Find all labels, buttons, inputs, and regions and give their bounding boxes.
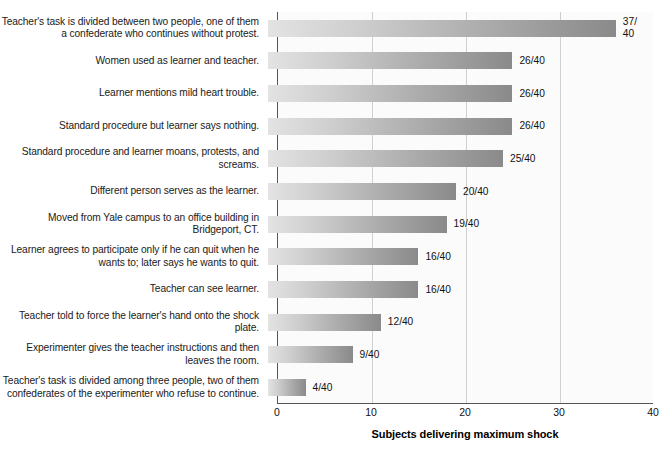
category-label: Standard procedure but learner says noth…: [0, 120, 268, 133]
bar-value-label: 4/40: [313, 382, 333, 394]
bar-value-label: 25/40: [510, 153, 536, 165]
chart-row: Teacher's task is divided among three pe…: [0, 371, 670, 404]
category-label: Different person serves as the learner.: [0, 185, 268, 198]
bar: [268, 85, 512, 102]
category-label: Learner mentions mild heart trouble.: [0, 87, 268, 100]
bar-zone: 19/40: [268, 208, 670, 241]
bar-zone: 26/40: [268, 77, 670, 110]
bar: [268, 52, 512, 69]
bar-zone: 4/40: [268, 371, 670, 404]
bar-value-label: 16/40: [425, 251, 451, 263]
bar-zone: 25/40: [268, 143, 670, 176]
chart-row: Different person serves as the learner.2…: [0, 175, 670, 208]
bar: [268, 281, 418, 298]
bar: [268, 346, 353, 363]
bar-zone: 26/40: [268, 110, 670, 143]
bar-value-label: 12/40: [388, 316, 414, 328]
x-tick-10: 10: [365, 406, 377, 418]
category-label: Learner agrees to participate only if he…: [0, 244, 268, 269]
bar-zone: 26/40: [268, 45, 670, 78]
bar-zone: 9/40: [268, 339, 670, 372]
chart-row: Teacher's task is divided between two pe…: [0, 12, 670, 45]
bar: [268, 248, 418, 265]
category-label: Standard procedure and learner moans, pr…: [0, 146, 268, 171]
bar-zone: 16/40: [268, 273, 670, 306]
bar-value-label: 9/40: [360, 349, 380, 361]
bar: [268, 216, 447, 233]
chart-row: Learner mentions mild heart trouble.26/4…: [0, 77, 670, 110]
bar-value-label: 20/40: [463, 186, 489, 198]
bar: [268, 379, 306, 396]
category-label: Teacher's task is divided between two pe…: [0, 16, 268, 41]
bar-value-label: 19/40: [454, 218, 480, 230]
category-label: Experimenter gives the teacher instructi…: [0, 342, 268, 367]
x-axis-title: Subjects delivering maximum shock: [277, 428, 653, 440]
category-label: Teacher told to force the learner's hand…: [0, 310, 268, 335]
category-label: Women used as learner and teacher.: [0, 55, 268, 68]
bar-value-label: 16/40: [425, 284, 451, 296]
chart-row: Moved from Yale campus to an office buil…: [0, 208, 670, 241]
bar-value-label: 26/40: [519, 55, 545, 67]
category-label: Teacher can see learner.: [0, 283, 268, 296]
bar: [268, 183, 456, 200]
bar-value-label: 26/40: [519, 88, 545, 100]
chart-row: Women used as learner and teacher.26/40: [0, 45, 670, 78]
chart-rows: Teacher's task is divided between two pe…: [0, 12, 670, 404]
x-tick-30: 30: [553, 406, 565, 418]
x-tick-40: 40: [647, 406, 659, 418]
bar-zone: 12/40: [268, 306, 670, 339]
bar-zone: 20/40: [268, 175, 670, 208]
bar-zone: 16/40: [268, 241, 670, 274]
chart-row: Teacher can see learner.16/40: [0, 273, 670, 306]
chart-row: Standard procedure but learner says noth…: [0, 110, 670, 143]
bar-chart: Teacher's task is divided between two pe…: [0, 0, 670, 460]
category-label: Moved from Yale campus to an office buil…: [0, 212, 268, 237]
x-tick-0: 0: [274, 406, 280, 418]
bar: [268, 118, 512, 135]
bar-value-label: 26/40: [519, 120, 545, 132]
bar: [268, 150, 503, 167]
bar: [268, 314, 381, 331]
chart-row: Experimenter gives the teacher instructi…: [0, 339, 670, 372]
x-axis-ticks: 010203040: [277, 406, 653, 422]
bar: [268, 20, 616, 37]
x-tick-20: 20: [459, 406, 471, 418]
chart-row: Learner agrees to participate only if he…: [0, 241, 670, 274]
bar-value-label: 37/ 40: [623, 16, 637, 40]
chart-row: Standard procedure and learner moans, pr…: [0, 143, 670, 176]
chart-row: Teacher told to force the learner's hand…: [0, 306, 670, 339]
category-label: Teacher's task is divided among three pe…: [0, 375, 268, 400]
bar-zone: 37/ 40: [268, 12, 670, 45]
